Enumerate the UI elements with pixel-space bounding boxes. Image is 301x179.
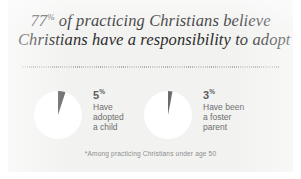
stat-adopted-desc-line-2: adopted bbox=[93, 112, 124, 122]
stat-foster-text: 3% Have been a foster parent bbox=[203, 85, 244, 133]
page-title: 77% of practicing Christians believe Chr… bbox=[18, 11, 283, 49]
footnote: *Among practicing Christians under age 5… bbox=[8, 150, 293, 157]
stat-adopted-text: 5% Have adopted a child bbox=[93, 85, 124, 133]
pie-chart-foster bbox=[144, 91, 192, 139]
headline-line-1: 77% of practicing Christians believe bbox=[18, 11, 283, 30]
stat-adopted-value: 5% bbox=[93, 89, 124, 101]
percent-symbol-icon: % bbox=[47, 12, 55, 22]
headline-line-1-rest: of practicing Christians believe bbox=[55, 11, 271, 30]
pie-chart-adopted bbox=[34, 91, 82, 139]
pie-chart-foster-svg bbox=[144, 91, 192, 139]
stat-adopted-desc-line-3: a child bbox=[93, 122, 124, 132]
stat-adopted: 5% Have adopted a child bbox=[34, 85, 124, 139]
percent-symbol-icon: % bbox=[99, 88, 105, 95]
stat-foster-desc-line-3: parent bbox=[203, 122, 244, 132]
dotted-divider bbox=[22, 66, 280, 68]
headline-statistic: 77 bbox=[30, 11, 47, 30]
stats-row: 5% Have adopted a child 3% Have been a f… bbox=[8, 85, 293, 143]
pie-chart-adopted-svg bbox=[34, 91, 82, 139]
infographic-panel: 77% of practicing Christians believe Chr… bbox=[8, 0, 293, 172]
stat-foster-desc-line-2: a foster bbox=[203, 112, 244, 122]
stat-foster-desc-line-1: Have been bbox=[203, 102, 244, 112]
headline-line-2: Christians have a responsibility to adop… bbox=[18, 30, 283, 49]
stat-foster: 3% Have been a foster parent bbox=[144, 85, 244, 139]
percent-symbol-icon: % bbox=[209, 88, 215, 95]
stat-adopted-desc-line-1: Have bbox=[93, 102, 124, 112]
stat-foster-value: 3% bbox=[203, 89, 244, 101]
